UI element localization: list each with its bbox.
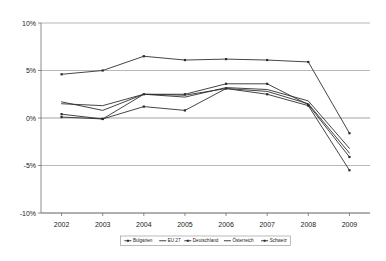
series-deutschland: [60, 83, 350, 158]
x-axis-label-2003: 2003: [95, 221, 111, 228]
data-point-marker: [266, 59, 268, 61]
data-point-marker: [348, 169, 350, 171]
legend-label-text: Schweiz: [270, 238, 288, 243]
legend-marker-icon: [264, 240, 266, 242]
x-axis-label-2005: 2005: [177, 221, 193, 228]
data-point-marker: [102, 69, 104, 71]
data-point-marker: [307, 105, 309, 107]
data-point-marker: [225, 58, 227, 60]
chart-canvas: 10%5%0%-5%-10% 2002200320042005200620072…: [0, 0, 386, 261]
series-line: [62, 89, 350, 171]
x-axis-tick-labels: 20022003200420052006200720082009: [54, 221, 358, 228]
data-point-marker: [102, 118, 104, 120]
data-point-marker: [348, 132, 350, 134]
y-axis-label-neg5pct: -5%: [24, 162, 36, 169]
chart-legend: BulgarienEU 27DeutschlandÖsterreichSchwe…: [120, 236, 290, 246]
series-line: [62, 84, 350, 157]
y-axis-label-5pct: 5%: [26, 67, 36, 74]
legend-label-text: Österreich: [232, 237, 254, 243]
series--sterreich: [62, 89, 350, 154]
data-point-marker: [348, 156, 350, 158]
x-axis-label-2004: 2004: [136, 221, 152, 228]
data-point-marker: [184, 109, 186, 111]
legend-marker-icon: [127, 240, 129, 242]
x-axis-label-2006: 2006: [218, 221, 234, 228]
x-axis-label-2009: 2009: [342, 221, 358, 228]
data-point-marker: [225, 83, 227, 85]
legend-marker-icon: [187, 240, 189, 242]
series-bulgarien: [60, 55, 350, 134]
data-point-marker: [184, 59, 186, 61]
data-point-marker: [266, 83, 268, 85]
y-axis-label-neg10pct: -10%: [20, 210, 36, 217]
x-axis-label-2008: 2008: [301, 221, 317, 228]
data-point-marker: [143, 106, 145, 108]
y-axis-label-0pct: 0%: [26, 115, 36, 122]
data-point-marker: [266, 93, 268, 95]
series-line: [62, 89, 350, 154]
data-point-marker: [60, 113, 62, 115]
x-axis-label-2002: 2002: [54, 221, 70, 228]
series-schweiz: [60, 87, 350, 171]
x-axis-label-2007: 2007: [259, 221, 275, 228]
data-point-marker: [225, 87, 227, 89]
data-point-marker: [307, 61, 309, 63]
legend-label-text: Deutschland: [193, 238, 219, 243]
legend-label-text: EU 27: [168, 238, 181, 243]
series-line: [62, 56, 350, 133]
y-axis-label-10pct: 10%: [22, 20, 36, 27]
y-axis-tick-labels: 10%5%0%-5%-10%: [20, 20, 36, 217]
data-point-marker: [143, 55, 145, 57]
data-point-marker: [60, 116, 62, 118]
line-chart: 10%5%0%-5%-10% 2002200320042005200620072…: [0, 0, 386, 261]
data-series-group: [60, 55, 350, 171]
legend-label-text: Bulgarien: [133, 238, 153, 243]
data-point-marker: [60, 73, 62, 75]
